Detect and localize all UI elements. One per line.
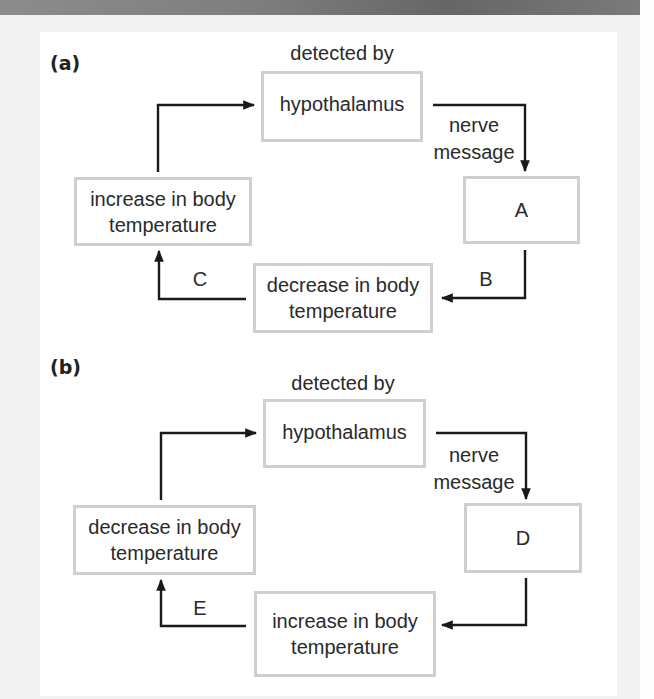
panel-a-increase-line1: increase in body xyxy=(90,186,236,212)
panel-a-decrease-temp-box: decrease in body temperature xyxy=(253,263,433,333)
panel-a-hypothalamus-label: hypothalamus xyxy=(280,91,405,117)
panel-b-effector-box-D: D xyxy=(464,503,582,573)
panel-a-message-caption: message xyxy=(431,139,517,165)
panel-b-nerve-caption: nerve xyxy=(438,442,510,468)
panel-b-decrease-line1: decrease in body xyxy=(88,514,240,540)
panel-b-effector-label: D xyxy=(516,525,530,551)
panel-b-increase-line1: increase in body xyxy=(272,608,418,634)
panel-a-nerve-caption: nerve xyxy=(438,112,510,138)
top-decorative-strip xyxy=(0,0,640,15)
panel-b-decrease-line2: temperature xyxy=(88,540,240,566)
panel-b-hypothalamus-box: hypothalamus xyxy=(263,399,426,468)
panel-a-arrow-label-C: C xyxy=(190,266,210,292)
panel-a-decrease-line1: decrease in body xyxy=(267,272,419,298)
panel-a-arrow-label-B: B xyxy=(476,266,496,292)
panel-b-message-caption: message xyxy=(431,469,517,495)
panel-a-decrease-line2: temperature xyxy=(267,298,419,324)
panel-b-arrow-label-E: E xyxy=(190,595,210,621)
panel-b-decrease-temp-box: decrease in body temperature xyxy=(73,505,256,575)
panel-b-detected-by-caption: detected by xyxy=(263,370,423,396)
panel-a-effector-label: A xyxy=(515,197,528,223)
panel-b-increase-line2: temperature xyxy=(272,634,418,660)
panel-b-label: (b) xyxy=(50,356,81,378)
panel-a-detected-by-caption: detected by xyxy=(262,40,422,66)
panel-a-label: (a) xyxy=(50,52,80,74)
panel-a-hypothalamus-box: hypothalamus xyxy=(261,71,423,142)
panel-b-hypothalamus-label: hypothalamus xyxy=(282,419,407,445)
panel-a-increase-line2: temperature xyxy=(90,212,236,238)
panel-a-effector-box-A: A xyxy=(463,176,580,244)
right-margin xyxy=(640,0,654,699)
panel-a-increase-temp-box: increase in body temperature xyxy=(74,177,252,246)
panel-b-increase-temp-box: increase in body temperature xyxy=(254,591,436,677)
